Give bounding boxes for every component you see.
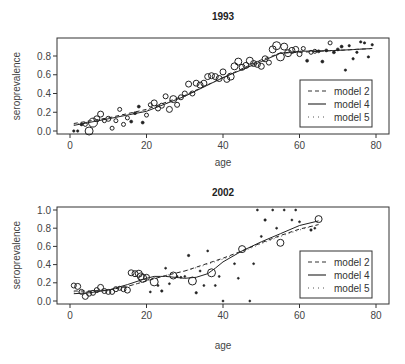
data-point	[310, 229, 312, 231]
data-point	[170, 272, 177, 279]
y-tick-label: 0.6	[37, 241, 51, 252]
data-point	[145, 113, 149, 117]
data-point	[328, 41, 332, 45]
data-point	[256, 209, 258, 211]
data-point	[203, 285, 205, 287]
data-point	[214, 285, 216, 287]
x-tick-label: 0	[67, 140, 73, 151]
data-point	[118, 107, 122, 111]
data-point	[356, 51, 358, 53]
data-point	[277, 239, 284, 246]
data-point	[239, 246, 246, 253]
data-point	[276, 227, 278, 229]
data-point	[295, 209, 297, 211]
y-tick-label: 0.0	[37, 126, 51, 137]
y-axis-label: seroprevalence	[11, 51, 22, 120]
data-point	[187, 254, 189, 256]
data-point	[222, 300, 224, 302]
data-point	[157, 285, 159, 287]
data-point	[176, 275, 178, 277]
legend: model 2 model 4 model 5	[300, 80, 372, 127]
x-tick-label: 60	[294, 310, 306, 321]
y-tick-label: 0.8	[37, 223, 51, 234]
data-point	[291, 219, 293, 221]
data-point	[253, 263, 255, 265]
data-point	[336, 48, 339, 51]
data-point	[360, 41, 362, 43]
data-point	[325, 49, 328, 52]
data-point	[80, 123, 83, 126]
data-point	[344, 69, 346, 71]
data-point	[363, 42, 365, 44]
data-point	[168, 283, 170, 285]
data-point	[266, 60, 271, 65]
x-tick-label: 20	[141, 140, 153, 151]
data-point	[114, 119, 118, 123]
data-point	[82, 293, 88, 299]
legend-label-model-2: model 2	[334, 86, 370, 97]
data-point	[348, 45, 350, 47]
data-point	[184, 275, 186, 277]
data-point	[352, 58, 354, 60]
data-point	[340, 45, 343, 48]
data-point	[188, 277, 196, 285]
y-axis: 0.00.20.40.60.81.0	[37, 205, 57, 307]
data-point	[134, 112, 137, 115]
y-tick-label: 0.4	[37, 259, 51, 270]
data-point	[306, 59, 309, 62]
legend: model 2 model 4 model 5	[300, 251, 372, 298]
data-point	[163, 94, 168, 99]
x-tick-label: 80	[370, 310, 382, 321]
data-point	[264, 219, 266, 221]
x-tick-label: 80	[370, 140, 382, 151]
data-point	[195, 292, 197, 294]
y-tick-label: 0.2	[37, 277, 51, 288]
data-point	[237, 277, 239, 279]
x-axis-label: age	[215, 157, 232, 168]
data-points	[71, 209, 322, 302]
y-tick-label: 1.0	[37, 205, 51, 216]
data-point	[332, 51, 335, 54]
data-point	[234, 263, 236, 265]
y-axis: 0.00.20.40.60.8	[37, 51, 57, 137]
x-axis: 020406080	[67, 134, 382, 151]
x-tick-label: 40	[217, 140, 229, 151]
data-point	[166, 106, 172, 112]
data-point	[165, 267, 167, 269]
legend-label-model-5: model 5	[334, 283, 370, 294]
legend-label-model-4: model 4	[334, 99, 370, 110]
panel-1993: 1993 0.00.20.40.60.8 020406080 age serop…	[11, 11, 389, 168]
data-point	[218, 275, 220, 277]
y-tick-label: 0.4	[37, 88, 51, 99]
x-tick-label: 60	[294, 140, 306, 151]
chart-title: 1993	[212, 11, 235, 22]
data-point	[149, 291, 151, 293]
data-point	[141, 121, 144, 124]
data-point	[249, 300, 251, 302]
data-point	[186, 81, 192, 87]
x-axis: 020406080	[67, 304, 382, 321]
data-point	[73, 130, 75, 132]
data-point	[110, 126, 114, 130]
y-tick-label: 0.6	[37, 69, 51, 80]
data-point	[199, 270, 201, 272]
y-tick-label: 0.0	[37, 296, 51, 307]
data-point	[220, 69, 226, 75]
data-point	[235, 58, 242, 65]
data-point	[283, 209, 285, 211]
panel-2002: 2002 0.00.20.40.60.81.0 020406080 age se…	[11, 187, 389, 351]
data-point	[314, 227, 316, 229]
data-point	[367, 56, 369, 58]
data-point	[98, 111, 104, 117]
data-point	[77, 130, 79, 132]
data-point	[299, 221, 301, 223]
figure: 1993 0.00.20.40.60.8 020406080 age serop…	[0, 0, 405, 364]
data-point	[371, 44, 373, 46]
data-point	[175, 102, 180, 107]
data-point	[130, 120, 133, 123]
data-point	[122, 122, 126, 126]
data-point	[281, 43, 288, 50]
legend-label-model-4: model 4	[334, 270, 370, 281]
data-point	[161, 290, 163, 292]
y-tick-label: 0.8	[37, 51, 51, 62]
